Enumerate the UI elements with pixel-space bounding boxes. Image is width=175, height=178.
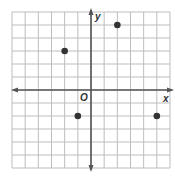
axes: [11, 8, 174, 172]
data-point: [154, 113, 161, 120]
data-points: [61, 22, 160, 120]
coordinate-plane: x y O: [0, 0, 175, 178]
data-point: [61, 48, 68, 55]
data-point: [114, 22, 121, 29]
origin-label: O: [80, 92, 88, 103]
x-axis-label: x: [162, 93, 169, 104]
y-axis-label: y: [94, 11, 101, 22]
data-point: [75, 113, 82, 120]
